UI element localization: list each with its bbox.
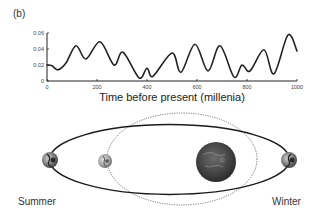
earth-left-icon: [42, 152, 58, 168]
y-tick-label: 0.04: [33, 46, 44, 52]
eccentricity-curve: [47, 34, 297, 78]
sun-icon: [196, 142, 236, 182]
x-tick-label: 1000: [291, 84, 303, 90]
y-tick-label: 0.06: [33, 30, 44, 36]
y-tick-label: 0: [41, 78, 44, 84]
x-tick-label: 200: [92, 84, 101, 90]
orbit-diagram: [42, 113, 297, 205]
summer-label: Summer: [18, 196, 56, 207]
eccentricity-chart: 0200400600800100000.020.040.06 Time befo…: [0, 0, 323, 216]
x-axis-title: Time before present (millenia): [99, 91, 245, 103]
eccentric-orbit-solid: [50, 125, 290, 195]
winter-label: Winter: [272, 196, 301, 207]
x-tick-label: 600: [192, 84, 201, 90]
earth-middle-icon: [98, 154, 112, 168]
y-tick-label: 0.02: [33, 62, 44, 68]
x-tick-label: 800: [242, 84, 251, 90]
x-tick-label: 400: [142, 84, 151, 90]
chart-axes: 0200400600800100000.020.040.06: [33, 30, 303, 90]
x-tick-label: 0: [45, 84, 48, 90]
earth-right-icon: [281, 152, 297, 168]
